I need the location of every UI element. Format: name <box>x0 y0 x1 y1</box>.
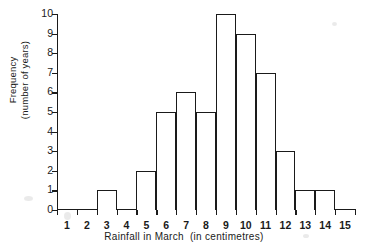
y-axis-tick-label: 9 <box>47 27 53 40</box>
x-axis-title-unit: (in centimetres) <box>190 231 264 242</box>
y-axis-tick-label: 10 <box>41 7 53 20</box>
x-axis-tick-mark <box>57 209 58 215</box>
x-axis-tick-mark <box>335 209 336 215</box>
x-axis-tick-mark <box>77 209 78 215</box>
bar <box>176 92 196 210</box>
scan-speckle <box>24 196 33 201</box>
y-axis-tick-label: 6 <box>47 85 53 98</box>
y-axis-tick-label: 2 <box>47 164 53 177</box>
histogram-figure: Frequency (number of years) 012345678910… <box>0 0 368 249</box>
bar <box>97 190 117 210</box>
bar <box>196 112 216 210</box>
y-axis-title: Frequency (number of years) <box>7 15 31 145</box>
y-axis-tick-label: 8 <box>47 46 53 59</box>
x-axis-title: Rainfall in March(in centimetres) <box>0 231 368 242</box>
bar <box>276 151 296 210</box>
bar <box>315 190 335 210</box>
y-axis-tick-label: 3 <box>47 144 53 157</box>
plot-area: 012345678910 123456789101112131415 <box>57 14 355 210</box>
y-axis-tick-label: 5 <box>47 105 53 118</box>
scan-speckle <box>303 234 309 238</box>
y-axis-tick-label: 1 <box>47 183 53 196</box>
y-axis-tick-label: 7 <box>47 66 53 79</box>
y-axis-title-line-1: Frequency <box>7 15 19 145</box>
x-axis-tick-mark <box>355 209 356 215</box>
bar <box>216 14 236 210</box>
bar <box>136 171 156 210</box>
x-axis-title-main: Rainfall in March <box>104 231 184 242</box>
x-axis-tick-mark <box>117 209 118 215</box>
scan-speckle <box>332 22 337 26</box>
y-axis-tick-label: 4 <box>47 125 53 138</box>
bar <box>156 112 176 210</box>
y-axis-tick-label: 0 <box>47 203 53 216</box>
y-axis-title-line-2: (number of years) <box>19 15 31 145</box>
bar <box>295 190 315 210</box>
scan-speckle <box>64 212 71 220</box>
bar <box>256 73 276 210</box>
bar <box>236 34 256 210</box>
